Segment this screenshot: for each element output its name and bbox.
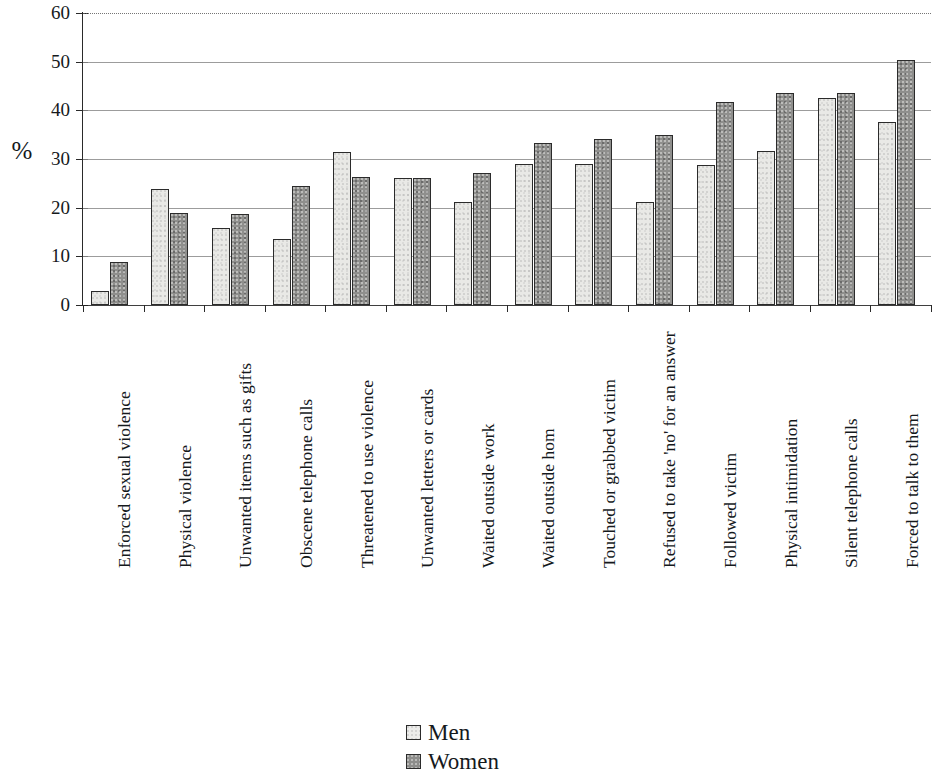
bar-men [575, 164, 593, 305]
x-axis-category-label-wrap: Touched or grabbed victim [602, 318, 621, 568]
bar-women [716, 102, 734, 305]
bar-women [473, 173, 491, 305]
bar-group [273, 13, 310, 305]
bar-women [413, 178, 431, 306]
legend-item: Men [406, 718, 626, 747]
bar-men [91, 291, 109, 305]
legend-label: Men [428, 721, 470, 745]
x-axis-tick [204, 305, 205, 312]
bar-men [333, 152, 351, 305]
x-axis-category-label: Waited outside hom [539, 318, 558, 568]
x-axis-category-label: Physical intimidation [782, 318, 801, 568]
bar-group [454, 13, 491, 305]
bar-group [636, 13, 673, 305]
x-axis-category-label-wrap: Physical intimidation [784, 318, 803, 568]
x-axis-category-label-wrap: Followed victim [723, 318, 742, 568]
x-axis-tick [810, 305, 811, 312]
bar-group [818, 13, 855, 305]
bar-men [757, 151, 775, 305]
gridline [83, 13, 931, 14]
legend-swatch-men [406, 725, 421, 740]
x-axis-tick [144, 305, 145, 312]
bar-women [655, 135, 673, 305]
x-axis-tick [749, 305, 750, 312]
y-axis-tick-label: 10 [26, 246, 70, 265]
bar-men [151, 189, 169, 305]
x-axis-category-label-wrap: Waited outside work [481, 318, 500, 568]
legend-label: Women [428, 750, 499, 774]
x-axis-tick [265, 305, 266, 312]
y-axis-tick-label: 50 [26, 52, 70, 71]
gridline [83, 159, 931, 160]
bar-group [212, 13, 249, 305]
x-axis-tick [568, 305, 569, 312]
legend-item: Women [406, 747, 626, 776]
x-axis-category-label-wrap: Obscene telephone calls [299, 318, 318, 568]
bar-women [594, 139, 612, 305]
gridline [83, 110, 931, 111]
bar-men [394, 178, 412, 306]
bar-men [212, 228, 230, 305]
bar-group [757, 13, 794, 305]
bar-men [878, 122, 896, 305]
bar-women [170, 213, 188, 305]
bar-group [878, 13, 915, 305]
x-axis-category-label: Physical violence [176, 318, 195, 568]
x-axis-category-label: Forced to talk to them [903, 318, 922, 568]
bar-women [837, 93, 855, 305]
gridline [83, 62, 931, 63]
x-axis-category-label: Waited outside work [479, 318, 498, 568]
x-axis-category-label-wrap: Threatened to use violence [360, 318, 379, 568]
x-axis-category-label: Silent telephone calls [842, 318, 861, 568]
x-axis-category-label-wrap: Waited outside hom [541, 318, 560, 568]
x-axis-category-label-wrap: Enforced sexual violence [117, 318, 136, 568]
gridline [83, 208, 931, 209]
bar-men [515, 164, 533, 305]
bar-women [897, 60, 915, 305]
x-axis-category-label: Unwanted letters or cards [418, 318, 437, 568]
bar-men [636, 202, 654, 305]
gridline [83, 256, 931, 257]
x-axis-tick [870, 305, 871, 312]
x-axis-tick [689, 305, 690, 312]
bar-men [818, 98, 836, 305]
y-axis-tick-label: 20 [26, 198, 70, 217]
x-axis-category-label: Refused to take 'no' for an answer [660, 318, 679, 568]
bar-group [91, 13, 128, 305]
x-axis-category-label-wrap: Forced to talk to them [905, 318, 924, 568]
bar-men [273, 239, 291, 305]
bar-women [110, 262, 128, 305]
bar-women [352, 177, 370, 305]
legend-swatch-women [406, 754, 421, 769]
x-axis-tick [386, 305, 387, 312]
bar-men [697, 165, 715, 305]
bar-group [151, 13, 188, 305]
x-axis-category-label: Unwanted items such as gifts [236, 318, 255, 568]
x-axis-category-label-wrap: Unwanted items such as gifts [238, 318, 257, 568]
bar-group [515, 13, 552, 305]
x-axis-category-label-wrap: Unwanted letters or cards [420, 318, 439, 568]
x-axis-tick [446, 305, 447, 312]
chart-legend: MenWomen [406, 718, 626, 776]
bar-women [534, 143, 552, 305]
x-axis-category-label: Followed victim [721, 318, 740, 568]
x-axis-tick [507, 305, 508, 312]
bar-chart: % 0102030405060 Enforced sexual violence… [0, 0, 939, 783]
bar-group [394, 13, 431, 305]
x-axis-tick [83, 305, 84, 312]
y-axis-tick-label: 60 [26, 3, 70, 22]
bar-women [231, 214, 249, 305]
bar-group [575, 13, 612, 305]
x-axis-category-label-wrap: Silent telephone calls [844, 318, 863, 568]
x-axis-category-label: Enforced sexual violence [115, 318, 134, 568]
x-axis-tick [325, 305, 326, 312]
plot-area [83, 13, 931, 305]
x-axis-category-label-wrap: Refused to take 'no' for an answer [662, 318, 681, 568]
x-axis-tick [628, 305, 629, 312]
x-axis-category-label-wrap: Physical violence [178, 318, 197, 568]
bar-group [697, 13, 734, 305]
x-axis-category-label: Touched or grabbed victim [600, 318, 619, 568]
y-axis-tick-label: 0 [26, 295, 70, 314]
x-axis-category-label: Obscene telephone calls [297, 318, 316, 568]
bar-women [776, 93, 794, 305]
